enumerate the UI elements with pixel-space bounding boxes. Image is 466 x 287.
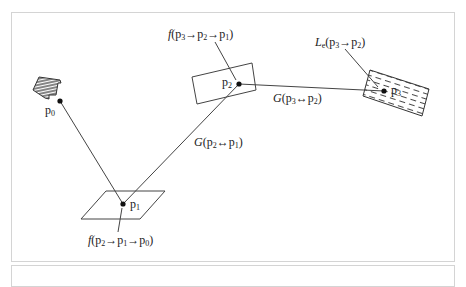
label-p1: p1 bbox=[130, 198, 140, 212]
vertex-p1 bbox=[120, 201, 125, 206]
segment-p0-p1 bbox=[60, 101, 123, 204]
segment-p2-p3 bbox=[239, 84, 384, 91]
label-p0: p0 bbox=[45, 104, 55, 118]
vertex-p2 bbox=[236, 81, 241, 86]
camera-icon bbox=[33, 77, 61, 99]
label-g-p3-p2: G(p3↔p2) bbox=[273, 92, 322, 106]
leader-f-p1 bbox=[118, 208, 122, 232]
label-p3: p3 bbox=[391, 84, 401, 98]
vertex-p0 bbox=[57, 98, 62, 103]
leader-le-p3 bbox=[345, 49, 378, 87]
label-f-p2-p1-p0: f(p2→p1→p0) bbox=[88, 234, 153, 248]
label-f-p3-p2-p1: f(p3→p2→p1) bbox=[168, 28, 233, 42]
label-p2: p2 bbox=[222, 76, 232, 90]
vertex-p3 bbox=[381, 88, 386, 93]
label-le-p3-p2: Le(p3→p2) bbox=[315, 36, 365, 50]
label-g-p2-p1: G(p2↔p1) bbox=[194, 136, 243, 150]
